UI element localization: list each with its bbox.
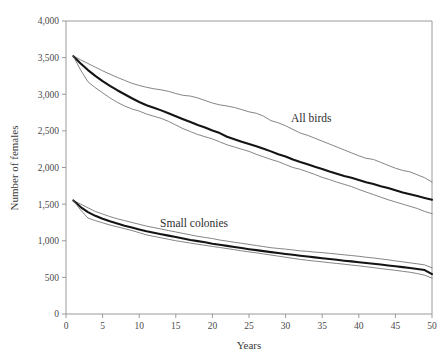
x-axis-title: Years bbox=[237, 339, 262, 351]
series-line bbox=[73, 200, 432, 267]
y-tick-label: 2,000 bbox=[38, 163, 60, 173]
y-tick-label: 1,000 bbox=[38, 236, 60, 246]
series-line bbox=[73, 56, 432, 182]
y-tick-label: 1,500 bbox=[38, 200, 60, 210]
y-tick-label: 3,500 bbox=[38, 53, 60, 63]
x-tick-label: 35 bbox=[317, 321, 327, 331]
x-tick-label: 25 bbox=[244, 321, 254, 331]
series-annotation-label: All birds bbox=[291, 112, 332, 124]
y-tick-label: 4,000 bbox=[38, 16, 60, 26]
series-line bbox=[73, 56, 432, 200]
x-tick-label: 45 bbox=[391, 321, 401, 331]
y-axis-ticks: 05001,0001,5002,0002,5003,0003,5004,000 bbox=[38, 16, 66, 319]
series-line bbox=[73, 200, 432, 278]
x-tick-label: 0 bbox=[64, 321, 69, 331]
y-tick-label: 500 bbox=[45, 273, 60, 283]
y-tick-label: 2,500 bbox=[38, 126, 60, 136]
x-tick-label: 10 bbox=[134, 321, 144, 331]
y-axis-title: Number of females bbox=[8, 126, 20, 211]
series-annotation-label: Small colonies bbox=[160, 217, 229, 229]
y-tick-label: 3,000 bbox=[38, 90, 60, 100]
axes bbox=[66, 21, 432, 314]
x-tick-label: 40 bbox=[354, 321, 364, 331]
x-tick-label: 50 bbox=[427, 321, 437, 331]
x-axis-ticks: 05101520253035404550 bbox=[64, 314, 437, 331]
x-tick-label: 5 bbox=[100, 321, 105, 331]
x-tick-label: 20 bbox=[208, 321, 218, 331]
line-chart-canvas: 05001,0001,5002,0002,5003,0003,5004,000 … bbox=[0, 0, 448, 364]
series-line bbox=[73, 56, 432, 213]
x-tick-label: 30 bbox=[281, 321, 291, 331]
x-tick-label: 15 bbox=[171, 321, 181, 331]
series-line bbox=[73, 200, 432, 274]
y-tick-label: 0 bbox=[54, 309, 59, 319]
chart-figure: 05001,0001,5002,0002,5003,0003,5004,000 … bbox=[0, 0, 448, 364]
data-curves bbox=[73, 56, 432, 278]
